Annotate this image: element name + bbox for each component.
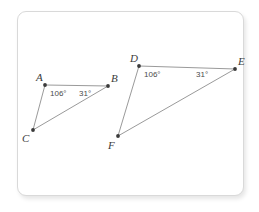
vertex-point-d: [137, 64, 141, 68]
segment-de: [139, 66, 235, 69]
angle-label-e: 31°: [196, 71, 208, 79]
triangles-figure: [0, 0, 259, 212]
angle-label-b: 31°: [79, 90, 91, 98]
angle-label-d: 106°: [144, 71, 161, 79]
angle-label-a: 106°: [50, 90, 67, 98]
vertex-point-a: [43, 83, 47, 87]
vertex-point-f: [116, 134, 120, 138]
vertex-label-c: C: [22, 133, 29, 144]
segment-ab: [45, 85, 108, 86]
vertex-point-e: [233, 67, 237, 71]
vertex-label-e: E: [238, 56, 245, 67]
vertex-label-d: D: [130, 53, 138, 64]
segment-cb: [33, 86, 108, 130]
vertex-point-c: [31, 128, 35, 132]
diagram-canvas: ABC106°31°DEF106°31°: [0, 0, 259, 212]
vertex-point-b: [106, 84, 110, 88]
vertex-label-f: F: [108, 140, 115, 151]
vertex-label-b: B: [111, 73, 118, 84]
vertex-label-a: A: [36, 72, 43, 83]
segment-ac: [33, 85, 45, 130]
